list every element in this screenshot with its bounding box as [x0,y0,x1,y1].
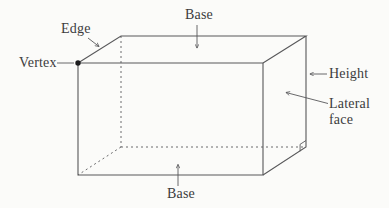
bottom-left-depth-edge [78,147,121,175]
front-face-outline [78,63,263,175]
lateral-face-pointer-arrow [286,93,328,104]
base-top-label: Base [185,7,213,23]
prism-diagram: Base Edge Vertex Height Lateral face Bas… [0,0,389,208]
edge-pointer-arrow [88,38,99,47]
vertex-label: Vertex [19,55,57,71]
base-bottom-label: Base [167,186,195,202]
height-label: Height [329,66,368,82]
top-face-outline [78,36,306,63]
right-face-outline [263,36,306,175]
vertex-dot [75,60,80,65]
lateral-face-label: Lateral face [329,96,383,128]
pointer-lines [57,25,328,186]
solid-edges [78,36,306,175]
edge-label: Edge [61,21,91,37]
